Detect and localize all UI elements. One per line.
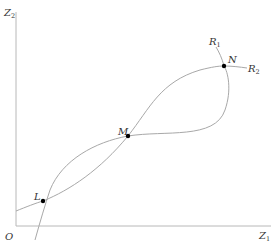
curve-r1 [35, 47, 229, 240]
point-l-label: L [34, 192, 41, 202]
curve-r2-label: R2 [248, 64, 260, 76]
point-l-marker [41, 199, 45, 203]
y-axis-label: Z2 [4, 8, 15, 20]
diagram-canvas [0, 0, 275, 248]
curve-r1-label: R1 [209, 37, 221, 49]
point-n-label: N [228, 55, 237, 65]
point-n-marker [222, 64, 226, 68]
point-m-label: M [118, 127, 128, 137]
origin-label: O [5, 232, 13, 242]
x-axis-label: Z1 [259, 231, 270, 243]
